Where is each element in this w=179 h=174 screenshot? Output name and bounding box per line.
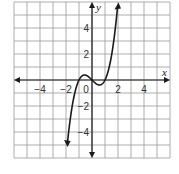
- y-axis-label: y: [95, 1, 101, 13]
- cubic-function-graph: −4−22442−2−40xy: [0, 0, 179, 174]
- x-tick-label: −2: [60, 84, 72, 95]
- y-axis-arrow-up-icon: [89, 2, 95, 8]
- y-axis-arrow-down-icon: [89, 152, 95, 158]
- x-tick-label: 2: [115, 84, 121, 95]
- y-tick-label: −2: [78, 101, 90, 112]
- x-tick-label: −4: [34, 84, 46, 95]
- x-axis-label: x: [161, 66, 167, 78]
- y-tick-label: 2: [83, 49, 89, 60]
- y-tick-label: −4: [78, 127, 90, 138]
- curve-arrow-down-icon: [64, 140, 71, 147]
- origin-label: 0: [83, 84, 89, 95]
- x-tick-label: 4: [141, 84, 147, 95]
- y-tick-label: 4: [83, 23, 89, 34]
- x-axis-arrow-left-icon: [14, 77, 20, 83]
